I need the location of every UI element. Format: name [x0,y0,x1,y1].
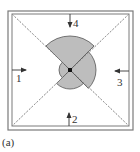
center-point-icon [68,68,72,72]
arrow-label-4: 4 [73,17,79,29]
diagram-figure: 1234 [0,0,140,152]
arrow-label-3: 3 [117,76,123,88]
arrow-label-1: 1 [16,72,22,84]
shaded-sector-shape [46,36,96,89]
arrow-label-2: 2 [72,113,78,125]
figure-caption: (a) [2,136,14,148]
